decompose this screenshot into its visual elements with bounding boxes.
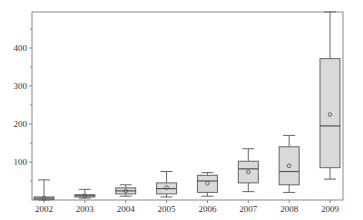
box-2002 <box>34 180 54 200</box>
y-tick-label: 200 <box>14 119 28 129</box>
y-tick-label: 400 <box>14 43 28 53</box>
box-plot-chart: 100200300400 200220032004200520062007200… <box>0 0 363 220</box>
x-tick-label: 2006 <box>198 204 217 214</box>
iqr-box <box>279 147 299 185</box>
boxes <box>34 12 340 200</box>
x-tick-label: 2003 <box>76 204 95 214</box>
iqr-box <box>238 161 258 183</box>
box-2003 <box>75 189 95 198</box>
box-2007 <box>238 149 258 192</box>
y-tick-label: 100 <box>14 157 28 167</box>
box-2005 <box>157 172 177 197</box>
iqr-box <box>320 59 340 168</box>
x-tick-label: 2007 <box>239 204 258 214</box>
box-2009 <box>320 12 340 179</box>
y-tick-label: 300 <box>14 81 28 91</box>
y-axis: 100200300400 <box>14 29 33 181</box>
x-axis: 20022003200420052006200720082009 <box>35 200 340 214</box>
iqr-box <box>197 175 217 192</box>
x-tick-label: 2008 <box>280 204 299 214</box>
box-2006 <box>197 173 217 197</box>
x-tick-label: 2009 <box>321 204 340 214</box>
box-2004 <box>116 185 136 196</box>
x-tick-label: 2002 <box>35 204 53 214</box>
box-2008 <box>279 135 299 192</box>
x-tick-label: 2005 <box>158 204 177 214</box>
x-tick-label: 2004 <box>117 204 136 214</box>
